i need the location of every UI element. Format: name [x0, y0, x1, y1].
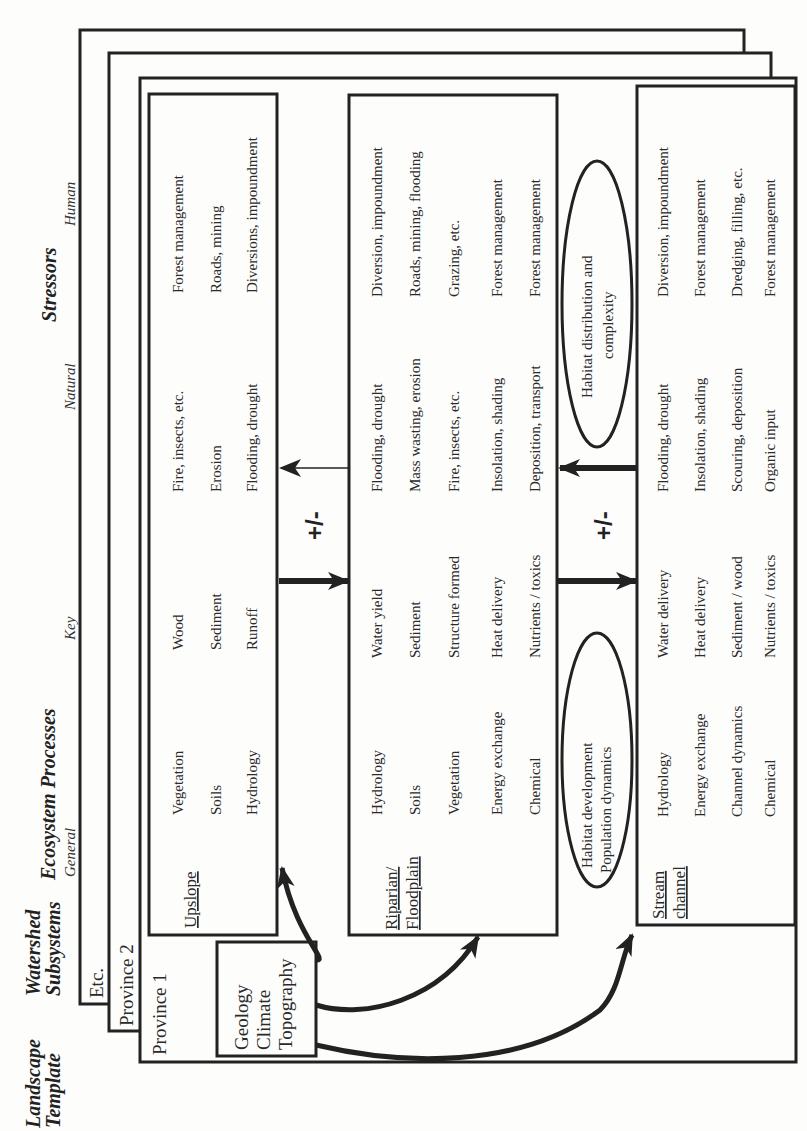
svg-text:Habitat distribution and: Habitat distribution and: [579, 255, 595, 398]
svg-text:Water yield: Water yield: [369, 588, 385, 658]
svg-text:Flooding, drought: Flooding, drought: [369, 383, 385, 492]
header-natural: Natural: [62, 363, 78, 411]
header-general: General: [62, 828, 78, 877]
svg-text:Chemical: Chemical: [527, 758, 543, 815]
svg-text:Nutrients / toxics: Nutrients / toxics: [527, 555, 543, 658]
svg-text:Sediment: Sediment: [407, 601, 423, 658]
svg-text:Forest management: Forest management: [489, 178, 505, 297]
subsystem-title-2: Floodplain: [403, 856, 422, 930]
subsystem-upslope: Upslope Vegetation Wood Fire, insects, e…: [149, 94, 277, 935]
svg-text:Forest management: Forest management: [527, 178, 543, 297]
svg-text:Chemical: Chemical: [762, 760, 778, 817]
svg-text:complexity: complexity: [600, 291, 616, 359]
header-key: Key: [62, 616, 78, 641]
svg-text:Dredging, filling, etc.: Dredging, filling, etc.: [729, 167, 745, 297]
header-watershed: Watershed: [22, 909, 44, 996]
svg-text:Vegetation: Vegetation: [446, 750, 462, 815]
svg-text:Forest management: Forest management: [762, 178, 778, 297]
svg-text:Vegetation: Vegetation: [170, 750, 186, 815]
svg-text:Organic input: Organic input: [762, 409, 778, 492]
svg-text:Water delivery: Water delivery: [655, 569, 671, 658]
label-etc: Etc.: [86, 968, 107, 998]
svg-text:Hydrology: Hydrology: [244, 750, 260, 815]
svg-text:Fire, insects, etc.: Fire, insects, etc.: [170, 391, 186, 492]
svg-text:Runoff: Runoff: [244, 608, 260, 650]
label-province-1: Province 1: [149, 973, 170, 1055]
header-stressors: Stressors: [38, 247, 60, 322]
svg-text:Deposition, transport: Deposition, transport: [527, 365, 543, 492]
svg-text:Habitat development: Habitat development: [579, 742, 595, 868]
subsystem-stream-channel: Stream channel Hydrology Water delivery …: [637, 86, 795, 925]
svg-text:Hydrology: Hydrology: [655, 752, 671, 817]
svg-text:Roads, mining: Roads, mining: [208, 205, 224, 293]
subsystem-title: Riparian/: [382, 866, 401, 930]
svg-text:Flooding, drought: Flooding, drought: [655, 383, 671, 492]
feedback-label-upper: +/-: [301, 511, 328, 540]
svg-text:Nutrients / toxics: Nutrients / toxics: [762, 555, 778, 658]
subsystem-riparian-floodplain: Riparian/ Floodplain Hydrology Water yie…: [349, 95, 557, 935]
svg-text:Insolation, shading: Insolation, shading: [692, 377, 708, 492]
svg-text:Heat delivery: Heat delivery: [489, 576, 505, 658]
svg-text:Energy exchange: Energy exchange: [489, 711, 505, 815]
svg-text:Flooding, drought: Flooding, drought: [244, 383, 260, 492]
svg-text:Diversion, impoundment: Diversion, impoundment: [655, 146, 671, 297]
template-climate: Climate: [253, 990, 274, 1050]
ellipse-habitat-distribution: Habitat distribution and complexity: [562, 161, 632, 447]
svg-text:Diversion, impoundment: Diversion, impoundment: [369, 146, 385, 297]
svg-text:Wood: Wood: [170, 614, 186, 650]
svg-text:Sediment: Sediment: [208, 593, 224, 650]
svg-text:Mass wasting, erosion: Mass wasting, erosion: [407, 358, 423, 492]
subsystem-title: Stream: [649, 871, 668, 919]
subsystem-title: Upslope: [181, 871, 200, 928]
svg-text:Fire, insects, etc.: Fire, insects, etc.: [446, 391, 462, 492]
svg-text:Structure formed: Structure formed: [446, 555, 462, 658]
subsystem-title-2: channel: [670, 866, 689, 919]
process-row: Channel dynamics Sediment / wood Scourin…: [729, 167, 745, 817]
svg-text:Hydrology: Hydrology: [369, 750, 385, 815]
header-ecosystem-processes: Ecosystem Processes: [37, 708, 60, 881]
svg-text:Forest management: Forest management: [692, 178, 708, 297]
ellipse-habitat-development: Habitat development Population dynamics: [562, 633, 632, 887]
label-province-2: Province 2: [116, 944, 137, 1026]
template-geology: Geology: [231, 984, 252, 1050]
header-landscape-template-2: Template: [42, 1053, 65, 1128]
header-subsystems: Subsystems: [42, 901, 65, 996]
svg-text:Scouring, deposition: Scouring, deposition: [729, 367, 745, 492]
watershed-diagram: Landscape Template Watershed Subsystems …: [0, 0, 807, 1131]
svg-text:Sediment / wood: Sediment / wood: [729, 556, 745, 658]
svg-text:Energy exchange: Energy exchange: [692, 713, 708, 817]
svg-text:Diversions, impoundment: Diversions, impoundment: [244, 136, 260, 293]
svg-text:Soils: Soils: [407, 785, 423, 815]
svg-text:Channel dynamics: Channel dynamics: [729, 706, 745, 817]
svg-text:Soils: Soils: [208, 785, 224, 815]
svg-text:Heat delivery: Heat delivery: [692, 576, 708, 658]
svg-text:Grazing, etc.: Grazing, etc.: [446, 220, 462, 297]
svg-text:Insolation, shading: Insolation, shading: [489, 377, 505, 492]
landscape-template-box: Geology Climate Topography: [217, 942, 316, 1056]
svg-text:Forest management: Forest management: [170, 174, 186, 293]
template-topography: Topography: [275, 958, 296, 1050]
svg-text:Erosion: Erosion: [208, 445, 224, 492]
column-headers: Landscape Template Watershed Subsystems …: [22, 182, 78, 1129]
feedback-label-lower: +/-: [590, 511, 617, 540]
svg-text:Population dynamics: Population dynamics: [598, 747, 614, 873]
svg-text:Roads, mining, flooding: Roads, mining, flooding: [407, 151, 423, 297]
header-human: Human: [62, 182, 78, 227]
